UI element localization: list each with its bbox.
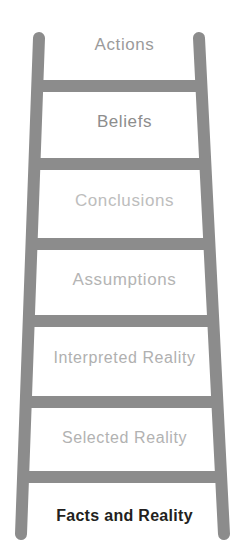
ladder-of-inference-diagram: Actions Beliefs Conclusions Assumptions … [0, 0, 249, 556]
ladder-step-conclusions: Conclusions [0, 192, 249, 209]
ladder-step-beliefs: Beliefs [0, 113, 249, 130]
ladder-step-assumptions: Assumptions [0, 271, 249, 288]
ladder-step-actions: Actions [0, 36, 249, 53]
ladder-step-interpreted-reality: Interpreted Reality [0, 350, 249, 366]
ladder-base-label: Facts and Reality [0, 508, 249, 524]
ladder-step-selected-reality: Selected Reality [0, 430, 249, 446]
